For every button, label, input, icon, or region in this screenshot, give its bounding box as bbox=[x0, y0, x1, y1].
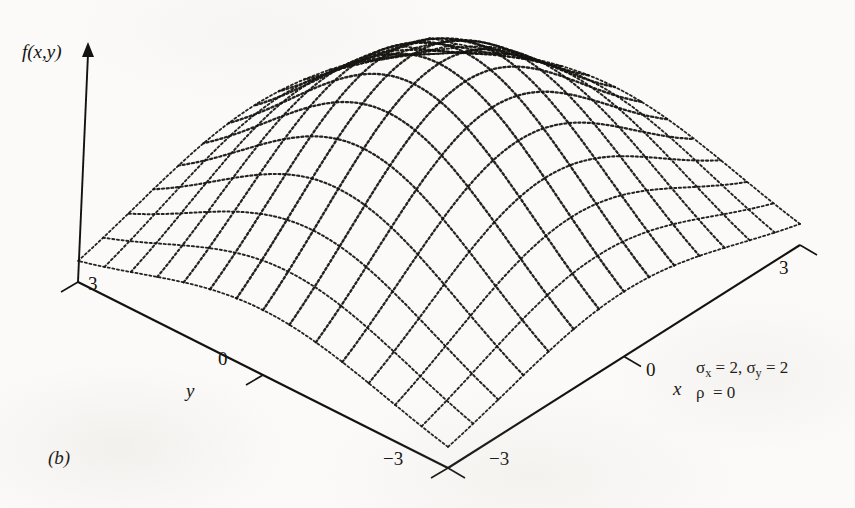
axes-group bbox=[61, 42, 817, 478]
surface-plot-canvas bbox=[0, 0, 855, 508]
vertical-axis-label: f(x,y) bbox=[22, 42, 62, 61]
figure-caption: (b) bbox=[48, 448, 70, 467]
mesh-line bbox=[369, 156, 721, 383]
mesh-line bbox=[448, 224, 800, 447]
mesh-line bbox=[179, 136, 549, 351]
x-axis-tick-neg3: −3 bbox=[489, 449, 509, 468]
sigma-x-symbol: σ bbox=[696, 358, 705, 377]
vertical-axis-arrowhead bbox=[82, 42, 94, 57]
mesh-line bbox=[380, 52, 750, 240]
x-tick-mark-3 bbox=[800, 245, 817, 255]
x-axis-tick-3: 3 bbox=[779, 258, 789, 277]
y-axis-label: y bbox=[186, 381, 194, 400]
sigma-y-symbol: σ bbox=[746, 358, 755, 377]
x-tick-mark-neg3 bbox=[448, 468, 465, 478]
y-tick-mark-3 bbox=[61, 282, 78, 292]
annotation-rho-row: ρ = 0 bbox=[696, 382, 788, 405]
mesh-line bbox=[184, 43, 536, 282]
x-tick-mark-0 bbox=[624, 357, 641, 367]
mesh-line bbox=[128, 212, 498, 400]
rho-value: = 0 bbox=[704, 383, 735, 402]
x-axis-label: x bbox=[673, 379, 681, 398]
y-axis-tick-neg3: −3 bbox=[383, 449, 403, 468]
mesh-line bbox=[103, 238, 473, 424]
annotation-sigma-row: σx = 2, σy = 2 bbox=[696, 357, 788, 382]
y-axis-tick-0: 0 bbox=[218, 349, 228, 368]
vertical-axis-line bbox=[78, 54, 88, 282]
sigma-y-value: = 2 bbox=[762, 358, 789, 377]
mesh-line bbox=[104, 44, 456, 267]
parameter-annotation: σx = 2, σy = 2 ρ = 0 bbox=[696, 357, 788, 404]
mesh-line bbox=[329, 41, 699, 256]
y-tick-mark-neg3 bbox=[431, 468, 448, 478]
mesh-line bbox=[304, 38, 674, 265]
sigma-x-value: = 2, bbox=[711, 358, 746, 377]
y-axis-tick-3: 3 bbox=[88, 274, 98, 293]
mesh-line bbox=[289, 67, 641, 325]
mesh-line bbox=[405, 47, 775, 233]
figure-container: f(x,y) y x 3 0 −3 3 0 −3 σx = 2, σy = 2 … bbox=[0, 0, 855, 508]
x-axis-tick-0: 0 bbox=[646, 360, 656, 379]
y-tick-mark-0 bbox=[246, 375, 263, 385]
mesh-line bbox=[153, 174, 523, 375]
